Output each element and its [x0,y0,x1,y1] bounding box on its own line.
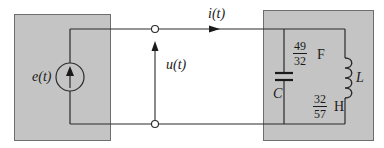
terminal-top [152,26,159,33]
inductor-unit: H [334,100,344,114]
circuit-diagram [0,0,384,148]
current-arrow-icon [209,26,220,33]
source-box [15,15,111,141]
voltage-arrow-icon [152,41,159,120]
terminal-bottom [152,121,159,128]
capacitor-symbol: C [273,87,282,101]
inductor-symbol: L [356,71,364,85]
inductor-value: 32 57 [313,93,327,120]
voltage-label: u(t) [166,58,186,72]
capacitor-value: 49 32 [293,40,307,67]
source-label: e(t) [32,70,51,84]
capacitor-unit: F [317,48,325,62]
current-label: i(t) [208,7,225,21]
